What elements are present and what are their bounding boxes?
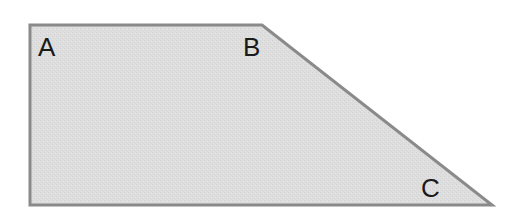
trapezoid-diagram: A B C bbox=[0, 0, 512, 212]
vertex-label-a: A bbox=[38, 32, 56, 62]
vertex-label-c: C bbox=[421, 173, 440, 203]
vertex-label-b: B bbox=[243, 32, 260, 62]
